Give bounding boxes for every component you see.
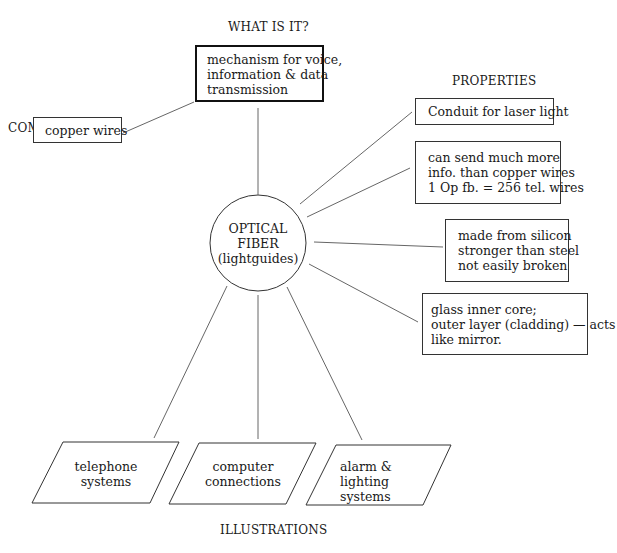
heading-what-is-it: WHAT IS IT? xyxy=(228,20,309,34)
property-text: glass inner core; xyxy=(431,302,587,317)
property-text: Conduit for laser light xyxy=(428,104,553,119)
property-text: made from silicon xyxy=(458,228,568,243)
property-text: outer layer (cladding) — acts xyxy=(431,317,587,332)
center-text: (lightguides) xyxy=(210,251,306,266)
property-box-structure: glass inner core; outer layer (cladding)… xyxy=(422,293,588,355)
heading-properties: PROPERTIES xyxy=(452,74,536,88)
illustration-text: systems xyxy=(340,489,440,504)
illustration-text: computer xyxy=(193,459,293,474)
illustration-telephone: telephone systems xyxy=(56,459,156,489)
property-box-material: made from silicon stronger than steel no… xyxy=(445,219,569,282)
center-text: OPTICAL xyxy=(210,221,306,236)
property-text: info. than copper wires xyxy=(428,165,560,180)
comparison-text: copper wires xyxy=(45,123,121,138)
property-text: like mirror. xyxy=(431,332,587,347)
definition-line: information & data xyxy=(207,67,322,82)
illustration-text: alarm & lighting xyxy=(340,459,440,489)
comparison-box-copper-wires: copper wires xyxy=(33,117,122,143)
property-box-conduit: Conduit for laser light xyxy=(415,98,554,125)
property-text: not easily broken xyxy=(458,258,568,273)
property-box-capacity: can send much more info. than copper wir… xyxy=(415,141,561,204)
illustration-text: systems xyxy=(56,474,156,489)
definition-line: transmission xyxy=(207,82,322,97)
property-text: can send much more xyxy=(428,150,560,165)
heading-illustrations: ILLUSTRATIONS xyxy=(220,523,327,537)
definition-line: mechanism for voice, xyxy=(207,52,322,67)
center-concept: OPTICAL FIBER (lightguides) xyxy=(210,221,306,266)
illustration-alarm: alarm & lighting systems xyxy=(340,459,440,504)
definition-box: mechanism for voice, information & data … xyxy=(195,45,324,102)
illustration-text: connections xyxy=(193,474,293,489)
illustration-text: telephone xyxy=(56,459,156,474)
property-text: 1 Op fb. = 256 tel. wires xyxy=(428,180,560,195)
center-text: FIBER xyxy=(210,236,306,251)
illustration-computer: computer connections xyxy=(193,459,293,489)
property-text: stronger than steel xyxy=(458,243,568,258)
